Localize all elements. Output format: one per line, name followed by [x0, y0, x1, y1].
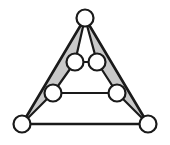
node-upper-left — [67, 54, 84, 71]
node-bottom-left — [14, 116, 31, 133]
diagram-canvas — [0, 0, 170, 145]
node-mid-left — [45, 85, 62, 102]
graph-nodes-layer — [14, 10, 157, 133]
graph-edges-layer — [22, 18, 148, 124]
node-bottom-right — [140, 116, 157, 133]
triangle-graph-figure — [0, 0, 170, 145]
shaded-regions-layer — [22, 18, 148, 124]
node-mid-right — [109, 85, 126, 102]
node-apex — [77, 10, 94, 27]
node-upper-right — [89, 54, 106, 71]
